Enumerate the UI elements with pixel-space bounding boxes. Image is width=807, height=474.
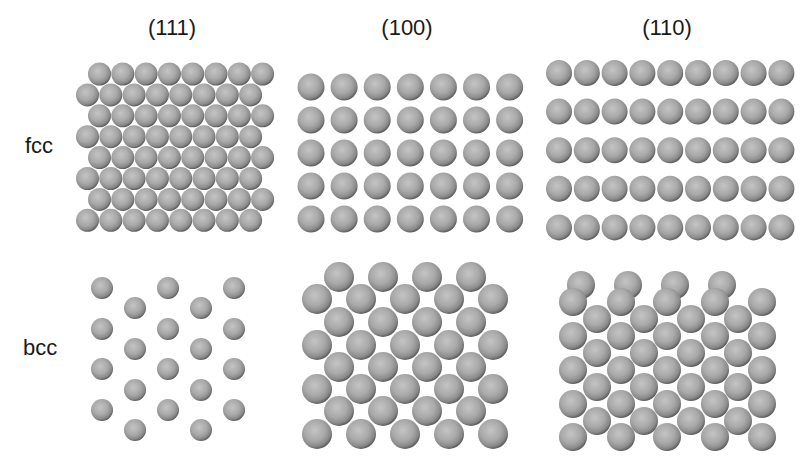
atom-sphere <box>88 146 111 169</box>
atom-sphere <box>559 288 587 316</box>
atom-sphere <box>546 99 572 125</box>
atom-sphere <box>496 74 523 101</box>
atom-sphere <box>88 188 111 211</box>
atom-sphere <box>216 209 239 232</box>
atom-sphere <box>397 173 424 200</box>
atom-sphere <box>629 60 655 86</box>
atom-sphere <box>228 188 251 211</box>
atom-sphere <box>412 262 442 292</box>
atom-sphere <box>434 284 464 314</box>
atom-sphere <box>748 356 776 384</box>
atom-sphere <box>190 419 212 441</box>
atom-sphere <box>496 173 523 200</box>
atom-sphere <box>135 104 158 127</box>
atom-sphere <box>748 322 776 350</box>
atom-sphere <box>390 330 420 360</box>
atom-sphere <box>653 288 681 316</box>
atom-sphere <box>677 339 705 367</box>
atom-sphere <box>181 188 204 211</box>
atom-sphere <box>629 214 655 240</box>
atom-sphere <box>390 374 420 404</box>
atom-sphere <box>111 63 134 86</box>
atom-sphere <box>239 125 262 148</box>
atom-sphere <box>302 419 332 449</box>
atom-sphere <box>559 390 587 418</box>
atom-sphere <box>157 399 179 421</box>
atom-sphere <box>364 140 391 167</box>
atom-sphere <box>430 74 457 101</box>
atom-sphere <box>364 206 391 233</box>
panel-bcc-111 <box>91 277 245 441</box>
atom-sphere <box>629 137 655 163</box>
atom-sphere <box>124 419 146 441</box>
atom-sphere <box>124 379 146 401</box>
atom-sphere <box>748 423 776 451</box>
atom-sphere <box>768 60 794 86</box>
atom-sphere <box>205 63 228 86</box>
atom-sphere <box>135 63 158 86</box>
atom-sphere <box>748 288 776 316</box>
atom-sphere <box>724 339 752 367</box>
atom-sphere <box>368 262 398 292</box>
atom-sphere <box>88 63 111 86</box>
atom-sphere <box>251 104 274 127</box>
atom-sphere <box>630 339 658 367</box>
atom-sphere <box>546 60 572 86</box>
atom-sphere <box>302 330 332 360</box>
atom-sphere <box>430 140 457 167</box>
atom-sphere <box>741 137 767 163</box>
atom-sphere <box>364 173 391 200</box>
atom-sphere <box>583 373 611 401</box>
atom-sphere <box>685 176 711 202</box>
atom-sphere <box>158 104 181 127</box>
atom-sphere <box>546 176 572 202</box>
atom-sphere <box>181 146 204 169</box>
atom-sphere <box>239 209 262 232</box>
atom-sphere <box>216 167 239 190</box>
atom-sphere <box>583 305 611 333</box>
atom-sphere <box>298 206 325 233</box>
atom-sphere <box>456 262 486 292</box>
atom-sphere <box>657 137 683 163</box>
atom-sphere <box>91 318 113 340</box>
atom-sphere <box>397 206 424 233</box>
atom-sphere <box>574 60 600 86</box>
atom-sphere <box>629 176 655 202</box>
atom-sphere <box>158 188 181 211</box>
atom-sphere <box>412 352 442 382</box>
atom-sphere <box>701 390 729 418</box>
atom-sphere <box>331 206 358 233</box>
atom-sphere <box>169 167 192 190</box>
atom-sphere <box>463 74 490 101</box>
atom-sphere <box>76 83 99 106</box>
atom-sphere <box>602 214 628 240</box>
atom-sphere <box>724 407 752 435</box>
atom-sphere <box>390 284 420 314</box>
atom-sphere <box>99 167 122 190</box>
atom-sphere <box>346 284 376 314</box>
atom-sphere <box>701 288 729 316</box>
atom-sphere <box>346 419 376 449</box>
atom-sphere <box>91 399 113 421</box>
atom-sphere <box>190 379 212 401</box>
atom-sphere <box>111 104 134 127</box>
atom-sphere <box>456 396 486 426</box>
atom-sphere <box>158 146 181 169</box>
atom-sphere <box>713 176 739 202</box>
atom-sphere <box>607 390 635 418</box>
atom-sphere <box>390 419 420 449</box>
atom-sphere <box>158 63 181 86</box>
atom-sphere <box>169 125 192 148</box>
panel-fcc-111 <box>76 63 274 232</box>
atom-sphere <box>331 173 358 200</box>
atom-sphere <box>724 305 752 333</box>
atom-sphere <box>331 140 358 167</box>
atom-sphere <box>574 176 600 202</box>
atom-sphere <box>496 206 523 233</box>
atom-sphere <box>302 284 332 314</box>
atom-sphere <box>135 146 158 169</box>
atom-sphere <box>368 307 398 337</box>
atom-sphere <box>223 358 245 380</box>
atom-sphere <box>478 419 508 449</box>
atom-sphere <box>768 214 794 240</box>
